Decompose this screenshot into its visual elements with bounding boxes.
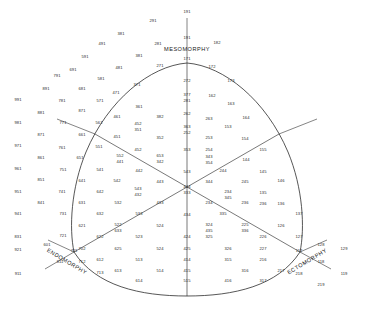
somatotype-code: 524 — [157, 223, 165, 228]
somatotype-code: 262 — [184, 111, 192, 116]
somatotype-code: 371 — [134, 82, 142, 87]
somatotype-code: 191 — [184, 35, 192, 40]
somatotype-code: 653 — [157, 153, 165, 158]
somatotype-code: 281 — [155, 41, 163, 46]
somatotype-code: 941 — [15, 211, 23, 216]
somatotype-code: 415 — [184, 268, 192, 273]
somatotype-code: 613 — [115, 268, 123, 273]
somatotype-code: 361 — [136, 104, 144, 109]
somatotype-code: 443 — [157, 179, 165, 184]
somatotype-code: 435 — [206, 228, 214, 233]
somatotype-code: 226 — [260, 234, 268, 239]
somatotype-code: 452 — [135, 147, 143, 152]
somatotype-code: 315 — [225, 257, 233, 262]
somatotype-code: 971 — [15, 143, 23, 148]
somatotype-code: 333 — [184, 190, 192, 195]
somatotype-code: 414 — [184, 257, 192, 262]
somatotype-code: 354 — [206, 160, 214, 165]
somatotype-code: 325 — [206, 234, 214, 239]
somatotype-code: 416 — [225, 278, 233, 283]
somatotype-code: 911 — [15, 271, 22, 276]
somatotype-code: 363 — [184, 124, 192, 129]
somatotype-code: 831 — [15, 234, 23, 239]
somatotype-code: 164 — [243, 115, 251, 120]
somatotype-code: 542 — [114, 178, 122, 183]
somatotype-code: 491 — [99, 41, 107, 46]
somatotype-code: 234 — [225, 189, 233, 194]
spoke-upper-right — [187, 134, 279, 187]
somatotype-code: 127 — [296, 234, 304, 239]
somatotype-code: 424 — [184, 234, 192, 239]
somatotype-code: 135 — [260, 190, 268, 195]
somatotype-code: 137 — [296, 211, 304, 216]
somatotype-code: 441 — [117, 159, 125, 164]
somatotype-code: 921 — [15, 247, 23, 252]
somatotype-code: 451 — [114, 134, 122, 139]
somatotype-code: 691 — [70, 67, 78, 72]
somatotype-code: 336 — [242, 228, 250, 233]
somatotype-code: 272 — [184, 78, 192, 83]
somatotype-code: 522 — [115, 222, 123, 227]
somatotype-code: 711 — [71, 248, 78, 253]
somatotype-code: 811 — [57, 259, 64, 264]
axis-label-mesomorphy: MESOMORPHY — [164, 46, 210, 52]
somatotype-code: 118 — [318, 259, 325, 264]
somatotype-code: 861 — [38, 155, 46, 160]
somatotype-code: 432 — [135, 192, 143, 197]
somatotype-code: 621 — [79, 223, 87, 228]
somatotype-code: 342 — [157, 159, 165, 164]
somatotype-code: 951 — [15, 189, 23, 194]
somatotype-code: 227 — [260, 246, 268, 251]
outline-left-arc — [72, 63, 187, 252]
somatotype-code: 352 — [157, 135, 165, 140]
somatotype-code: 631 — [79, 200, 87, 205]
somatotype-code: 433 — [157, 200, 165, 205]
somatotype-code: 316 — [242, 268, 250, 273]
somatotype-code: 263 — [206, 116, 214, 121]
somatotype-code: 216 — [260, 257, 268, 262]
somatotype-code: 351 — [135, 127, 143, 132]
somatotype-code: 217 — [278, 268, 286, 273]
somatotype-code: 452 — [135, 121, 143, 126]
somatotype-code: 514 — [157, 268, 165, 273]
somatotype-code: 981 — [15, 120, 23, 125]
somatotype-code: 117 — [296, 248, 303, 253]
somatotype-code: 381 — [118, 31, 126, 36]
somatotype-code: 461 — [114, 114, 122, 119]
somatotype-code: 254 — [206, 147, 214, 152]
somatotype-code: 442 — [136, 168, 144, 173]
somatotype-code: 281 — [184, 98, 192, 103]
somatotype-code: 561 — [96, 120, 104, 125]
somatotype-code: 681 — [79, 86, 87, 91]
somatotype-code: 871 — [38, 132, 46, 137]
somatotype-code: 444 — [184, 184, 192, 189]
somatotype-code: 581 — [98, 76, 106, 81]
somatotype-code: 841 — [38, 200, 46, 205]
somatotype-code: 425 — [184, 246, 192, 251]
somatotype-code: 731 — [60, 211, 68, 216]
somatotype-code: 353 — [184, 147, 192, 152]
somatotype-code: 713 — [97, 270, 105, 275]
somatotype-code: 382 — [157, 114, 165, 119]
somatotype-code: 326 — [225, 246, 233, 251]
somatotype-code: 513 — [136, 257, 144, 262]
somatotype-code: 128 — [318, 242, 326, 247]
somatotype-code: 191 — [184, 9, 192, 14]
somatotype-code: 871 — [79, 108, 87, 113]
somatotype-code: 881 — [38, 110, 46, 115]
somatochart-figure: MESOMORPHY ENDOMORPHY ECTOMORPHY 1912911… — [0, 0, 381, 320]
somatotype-code: 317 — [260, 278, 268, 283]
somatotype-code: 154 — [242, 136, 250, 141]
somatotype-code: 171 — [184, 56, 192, 61]
somatotype-code: 891 — [43, 86, 51, 91]
somatotype-code: 532 — [115, 200, 123, 205]
somatotype-code: 155 — [260, 147, 268, 152]
somatotype-code: 625 — [115, 246, 123, 251]
somatotype-code: 324 — [206, 222, 214, 227]
somatotype-code: 633 — [115, 228, 123, 233]
somatotype-code: 771 — [60, 120, 68, 125]
somatotype-code: 218 — [296, 271, 304, 276]
somatotype-code: 343 — [206, 154, 214, 159]
somatotype-code: 381 — [136, 53, 144, 58]
somatotype-code: 641 — [79, 178, 87, 183]
